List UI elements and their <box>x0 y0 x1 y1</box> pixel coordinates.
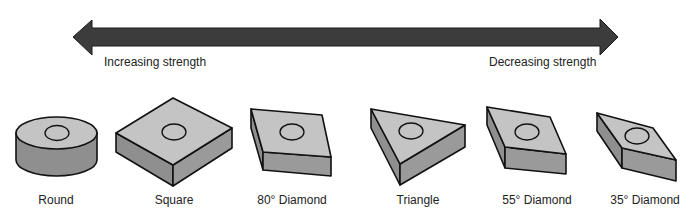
diamond-35-label: 35° Diamond <box>610 193 680 207</box>
triangle-label: Triangle <box>397 193 440 207</box>
decreasing-strength-label: Decreasing strength <box>489 55 596 69</box>
round-label: Round <box>38 193 73 207</box>
diamond-80-insert-icon <box>251 109 331 176</box>
square-label: Square <box>155 193 194 207</box>
diamond-35-insert-icon <box>597 113 676 181</box>
increasing-strength-label: Increasing strength <box>104 55 206 69</box>
strength-double-arrow <box>73 19 618 55</box>
square-insert-icon <box>116 98 232 186</box>
diamond-55-insert-icon <box>487 107 566 174</box>
round-insert-icon <box>16 117 97 176</box>
diamond-55-label: 55° Diamond <box>502 193 572 207</box>
triangle-insert-icon <box>371 109 465 185</box>
diamond-80-label: 80° Diamond <box>257 193 327 207</box>
insert-shapes-diagram <box>0 0 696 217</box>
